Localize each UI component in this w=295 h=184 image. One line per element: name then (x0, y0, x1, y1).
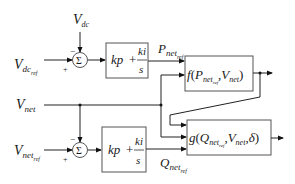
sum-symbol-top: Σ (76, 55, 82, 66)
pi-top-kp: kp (111, 52, 124, 67)
vnet-label: Vnet (16, 97, 36, 114)
top-plus-sign: + (63, 65, 68, 74)
vnet-to-g-arrow (161, 105, 186, 137)
pi-top-den: s (139, 63, 143, 75)
vdc-ref-label: Vdcref (14, 57, 39, 76)
sum-symbol-bottom: Σ (76, 145, 82, 156)
bottom-plus-sign: + (63, 155, 68, 164)
diagram-svg: Vdc − Vdcref + Σ kp + ki s Pnetref f(Pne… (0, 0, 295, 184)
pi-bottom-num: ki (135, 135, 143, 147)
vnet-to-f-arrow (161, 75, 184, 105)
pi-top-num: ki (138, 45, 146, 57)
pi-bottom-den: s (136, 154, 140, 166)
pi-bottom-plus: + (126, 142, 133, 157)
pi-bottom-kp: kp (108, 142, 121, 157)
bottom-minus-sign: − (70, 134, 75, 144)
control-diagram: Vdc − Vdcref + Σ kp + ki s Pnetref f(Pne… (0, 0, 295, 184)
qnet-ref-label: Qnetref (160, 155, 188, 174)
vdc-label: Vdc (73, 12, 90, 29)
vnet-ref-label: Vnetref (14, 143, 41, 162)
pnet-ref-label: Pnetref (157, 41, 185, 60)
pi-top-plus: + (129, 52, 136, 67)
